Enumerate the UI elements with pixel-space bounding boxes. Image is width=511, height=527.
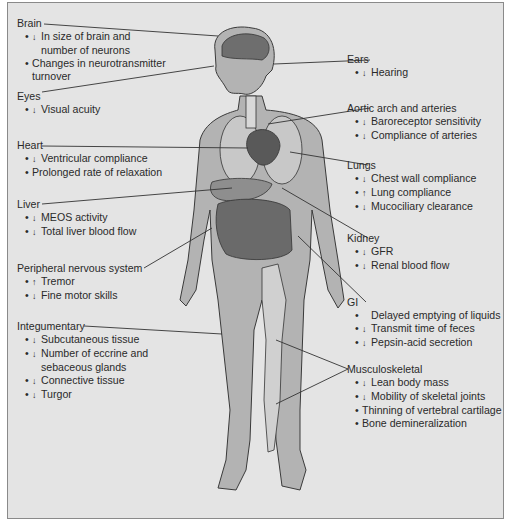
- decrease-arrow-icon: ↓: [362, 391, 371, 404]
- label-integumentary: Integumentary ↓Subcutaneous tissue ↓Numb…: [17, 320, 148, 402]
- system-title: Brain: [17, 17, 166, 30]
- system-title: Heart: [17, 139, 162, 152]
- finding-item: ↓Compliance of arteries: [355, 129, 481, 143]
- system-title: Kidney: [347, 232, 449, 245]
- system-title: Musculoskeletal: [347, 363, 502, 376]
- finding-continuation: sebaceous glands: [25, 361, 148, 374]
- finding-item: ↓Transmit time of feces: [355, 322, 501, 336]
- finding-continuation: turnover: [25, 70, 166, 83]
- label-musculoskeletal: Musculoskeletal ↓Lean body mass ↓Mobilit…: [347, 363, 502, 430]
- system-title: Liver: [17, 198, 136, 211]
- finding-item: ↑Lung compliance: [355, 186, 476, 200]
- decrease-arrow-icon: ↓: [362, 116, 371, 129]
- decrease-arrow-icon: ↓: [362, 201, 371, 214]
- increase-arrow-icon: ↑: [32, 276, 41, 289]
- decrease-arrow-icon: ↓: [32, 389, 41, 402]
- increase-arrow-icon: ↑: [362, 187, 371, 200]
- intestines-shape: [216, 199, 292, 259]
- decrease-arrow-icon: ↓: [362, 173, 371, 186]
- decrease-arrow-icon: ↓: [362, 337, 371, 350]
- decrease-arrow-icon: ↓: [362, 246, 371, 259]
- label-ears: Ears ↓Hearing: [347, 53, 408, 80]
- finding-item: ↓MEOS activity: [25, 211, 136, 225]
- decrease-arrow-icon: ↓: [32, 375, 41, 388]
- finding-item: ↓Baroreceptor sensitivity: [355, 115, 481, 129]
- system-title: Peripheral nervous system: [17, 262, 142, 275]
- decrease-arrow-icon: ↓: [32, 104, 41, 117]
- decrease-arrow-icon: ↓: [362, 130, 371, 143]
- finding-item: ↓Lean body mass: [355, 376, 502, 390]
- finding-item: ↓Mobility of skeletal joints: [355, 390, 502, 404]
- finding-continuation: number of neurons: [25, 44, 166, 57]
- system-title: GI: [347, 296, 501, 309]
- decrease-arrow-icon: ↓: [362, 323, 371, 336]
- system-title: Eyes: [17, 90, 100, 103]
- system-title: Aortic arch and arteries: [347, 102, 481, 115]
- finding-item: ↓Total liver blood flow: [25, 225, 136, 239]
- finding-item: Bone demineralization: [355, 417, 502, 430]
- decrease-arrow-icon: ↓: [32, 153, 41, 166]
- finding-item: ↓GFR: [355, 245, 449, 259]
- label-kidney: Kidney ↓GFR ↓Renal blood flow: [347, 232, 449, 273]
- system-title: Lungs: [347, 159, 476, 172]
- decrease-arrow-icon: ↓: [32, 212, 41, 225]
- label-peripheral-nervous-system: Peripheral nervous system ↑Tremor ↓Fine …: [17, 262, 142, 303]
- finding-item: ↓In size of brain and: [25, 30, 166, 44]
- decrease-arrow-icon: ↓: [32, 31, 41, 44]
- finding-item: Changes in neurotransmitter: [25, 57, 166, 70]
- finding-item: ↓Chest wall compliance: [355, 172, 476, 186]
- finding-item: ↑Tremor: [25, 275, 142, 289]
- label-brain: Brain ↓In size of brain and number of ne…: [17, 17, 166, 83]
- finding-item: ↓Fine motor skills: [25, 289, 142, 303]
- finding-item: Prolonged rate of relaxation: [25, 166, 162, 179]
- decrease-arrow-icon: ↓: [32, 348, 41, 361]
- decrease-arrow-icon: ↓: [362, 260, 371, 273]
- finding-item: Delayed emptying of liquids: [355, 309, 501, 322]
- spine-shape: [246, 96, 256, 128]
- finding-item: Thinning of vertebral cartilage: [355, 404, 502, 417]
- decrease-arrow-icon: ↓: [32, 334, 41, 347]
- label-heart: Heart ↓Ventricular compliance Prolonged …: [17, 139, 162, 179]
- finding-item: ↓Pepsin-acid secretion: [355, 336, 501, 350]
- label-aortic-arch-arteries: Aortic arch and arteries ↓Baroreceptor s…: [347, 102, 481, 143]
- finding-item: ↓Visual acuity: [25, 103, 100, 117]
- finding-item: ↓Renal blood flow: [355, 259, 449, 273]
- finding-item: ↓Turgor: [25, 388, 148, 402]
- decrease-arrow-icon: ↓: [32, 290, 41, 303]
- decrease-arrow-icon: ↓: [362, 67, 371, 80]
- decrease-arrow-icon: ↓: [32, 226, 41, 239]
- system-title: Ears: [347, 53, 408, 66]
- finding-item: ↓Subcutaneous tissue: [25, 333, 148, 347]
- label-eyes: Eyes ↓Visual acuity: [17, 90, 100, 117]
- finding-item: ↓Connective tissue: [25, 374, 148, 388]
- decrease-arrow-icon: ↓: [362, 377, 371, 390]
- finding-item: ↓Number of eccrine and: [25, 347, 148, 361]
- label-liver: Liver ↓MEOS activity ↓Total liver blood …: [17, 198, 136, 239]
- finding-item: ↓Ventricular compliance: [25, 152, 162, 166]
- brain-shape: [222, 34, 269, 60]
- system-title: Integumentary: [17, 320, 148, 333]
- label-lungs: Lungs ↓Chest wall compliance ↑Lung compl…: [347, 159, 476, 214]
- finding-item: ↓Mucociliary clearance: [355, 200, 476, 214]
- finding-item: ↓Hearing: [355, 66, 408, 80]
- label-gi: GI Delayed emptying of liquids ↓Transmit…: [347, 296, 501, 350]
